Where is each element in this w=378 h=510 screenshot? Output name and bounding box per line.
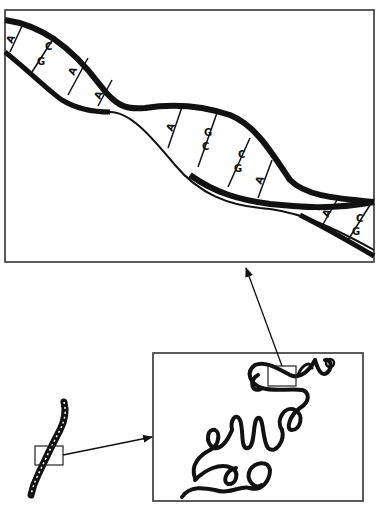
helix-strand-thick-mid	[190, 175, 374, 207]
base-label: A	[66, 65, 79, 77]
chromatin-fiber	[182, 359, 334, 497]
base-label: A	[253, 174, 266, 186]
dna-helix: A C G A A A G C C G A A C G	[4, 20, 374, 256]
base-label: C	[356, 213, 363, 224]
arrow-to-chromatin-panel	[63, 437, 152, 455]
base-label: C	[238, 149, 245, 160]
chromatin-zoom-box	[268, 366, 296, 386]
base-label: G	[204, 127, 212, 138]
helix-strand-thin	[5, 52, 374, 250]
base-label: G	[234, 163, 242, 174]
arrow-to-helix-panel	[246, 268, 282, 366]
helix-strand-thick	[5, 20, 374, 202]
base-label: G	[37, 56, 45, 67]
dna-diagram: A C G A A A G C C G A A C G	[0, 0, 378, 510]
base-label: A	[164, 121, 177, 133]
base-label: C	[45, 41, 52, 52]
base-label: G	[352, 226, 360, 237]
chromosome	[31, 402, 65, 495]
base-label: A	[4, 33, 17, 45]
base-label: C	[202, 141, 209, 152]
